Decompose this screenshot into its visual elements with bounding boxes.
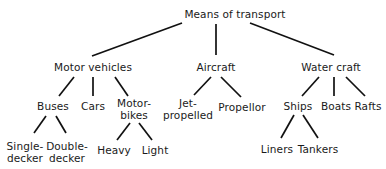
edge-ships-liners xyxy=(281,115,294,138)
node-tankers: Tankers xyxy=(298,143,338,155)
node-boats: Boats xyxy=(321,100,351,112)
node-motor-bikes-line1: Motor- xyxy=(117,97,151,109)
edge-motorbikes-light xyxy=(139,123,152,140)
node-motor-vehicles: Motor vehicles xyxy=(54,61,132,73)
node-double-decker-line1: Double- xyxy=(46,140,88,152)
node-water-craft: Water craft xyxy=(301,61,361,73)
edge-water-craft-ships xyxy=(302,77,319,96)
node-rafts: Rafts xyxy=(354,100,381,112)
node-heavy: Heavy xyxy=(97,144,131,156)
transport-tree-diagram: Means of transport Motor vehicles Aircra… xyxy=(0,0,386,169)
node-single-decker-line1: Single- xyxy=(7,140,44,152)
node-light: Light xyxy=(142,144,169,156)
edge-buses-double-decker xyxy=(56,116,66,133)
node-cars: Cars xyxy=(81,100,105,112)
edge-aircraft-propellor xyxy=(221,77,241,97)
node-motor-bikes-line2: bikes xyxy=(117,109,151,121)
node-double-decker: Double- decker xyxy=(46,140,88,164)
node-means-of-transport: Means of transport xyxy=(184,8,285,20)
node-buses: Buses xyxy=(37,100,69,112)
edge-water-craft-rafts xyxy=(346,77,365,96)
edge-buses-single-decker xyxy=(34,116,46,133)
edge-motor-vehicles-motorbikes xyxy=(115,77,128,96)
node-jet-propelled-line2: propelled xyxy=(163,109,213,121)
edge-motorbikes-heavy xyxy=(117,123,130,140)
edge-root-water-craft xyxy=(250,23,334,55)
node-jet-propelled-line1: Jet- xyxy=(163,97,213,109)
edge-ships-tankers xyxy=(303,115,318,138)
node-liners: Liners xyxy=(261,143,293,155)
node-aircraft: Aircraft xyxy=(196,61,235,73)
edge-motor-vehicles-buses xyxy=(59,77,74,96)
node-jet-propelled: Jet- propelled xyxy=(163,97,213,121)
node-double-decker-line2: decker xyxy=(46,152,88,164)
edge-root-motor-vehicles xyxy=(92,23,182,56)
edge-aircraft-jet xyxy=(194,77,211,95)
node-motor-bikes: Motor- bikes xyxy=(117,97,151,121)
node-propellor: Propellor xyxy=(218,101,265,113)
node-single-decker: Single- decker xyxy=(7,140,44,164)
node-single-decker-line2: decker xyxy=(7,152,44,164)
node-ships: Ships xyxy=(284,100,313,112)
